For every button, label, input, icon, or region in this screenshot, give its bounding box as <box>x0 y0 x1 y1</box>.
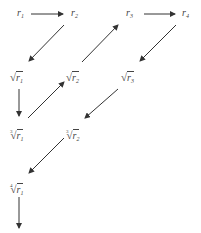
node-subscript: 2 <box>75 13 78 19</box>
node-r1: r1 <box>17 8 24 21</box>
arrow-sqrt-r2-to-r3 <box>82 25 118 62</box>
node-subscript: 1 <box>20 136 23 142</box>
node-subscript: 2 <box>76 78 79 84</box>
node-sqrt-r2: √r2 <box>66 72 79 86</box>
arrow-cbrt-r2-to-root4-r1 <box>29 138 64 173</box>
arrow-sqrt-r3-to-cbrt-r2 <box>85 89 118 118</box>
node-subscript: 1 <box>20 78 23 84</box>
node-cbrt-r2: 3√r2 <box>66 127 79 144</box>
node-subscript: 4 <box>186 13 189 19</box>
node-sqrt-r1: √r1 <box>10 72 23 86</box>
diagram-canvas: r1 r2 r3 r4 √r1 √r2 √r3 3√r1 3√r2 4√r1 <box>0 0 201 233</box>
node-subscript: 1 <box>21 13 24 19</box>
node-r4: r4 <box>182 8 189 21</box>
node-subscript: 2 <box>76 136 79 142</box>
node-root4-r1: 4√r1 <box>10 181 23 198</box>
arrow-r2-to-sqrt-r1 <box>29 25 64 61</box>
arrow-r4-to-sqrt-r3 <box>140 25 176 61</box>
node-subscript: 3 <box>130 13 133 19</box>
node-sqrt-r3: √r3 <box>121 72 134 86</box>
node-r3: r3 <box>126 8 133 21</box>
node-r2: r2 <box>71 8 78 21</box>
node-cbrt-r1: 3√r1 <box>10 127 23 144</box>
node-subscript: 3 <box>131 78 134 84</box>
arrows-layer <box>0 0 201 233</box>
arrow-cbrt-r1-to-sqrt-r2 <box>28 82 64 118</box>
node-subscript: 1 <box>20 190 23 196</box>
